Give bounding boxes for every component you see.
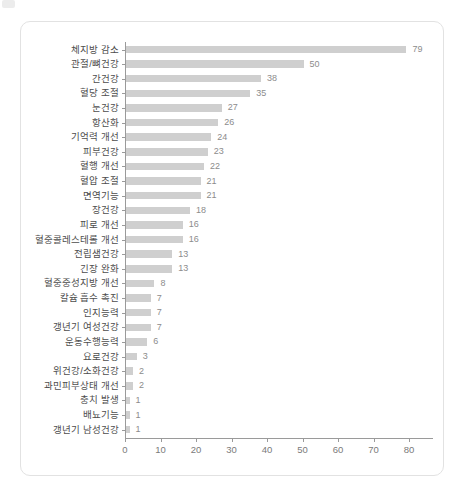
category-label: 면역기능 bbox=[21, 191, 119, 201]
x-tick-label: 60 bbox=[333, 445, 344, 455]
y-axis-tick bbox=[122, 400, 125, 401]
bar bbox=[126, 309, 151, 317]
bar bbox=[126, 324, 151, 332]
x-axis-tick bbox=[374, 439, 375, 442]
category-label: 갱년기 남성건강 bbox=[21, 425, 119, 435]
bar bbox=[126, 353, 137, 361]
value-label: 23 bbox=[214, 147, 224, 156]
bar bbox=[126, 207, 190, 215]
x-axis-tick bbox=[267, 439, 268, 442]
y-axis-tick bbox=[122, 357, 125, 358]
x-tick-label: 30 bbox=[226, 445, 237, 455]
value-label: 1 bbox=[136, 396, 141, 405]
category-label: 인지능력 bbox=[21, 308, 119, 318]
category-label: 체지방 감소 bbox=[21, 45, 119, 55]
value-label: 2 bbox=[139, 381, 144, 390]
screenshot-corner-artifact bbox=[2, 0, 15, 8]
value-label: 21 bbox=[207, 177, 217, 186]
bar bbox=[126, 250, 172, 258]
category-label: 위건강/소화건강 bbox=[21, 366, 119, 376]
x-axis-tick bbox=[232, 439, 233, 442]
category-label: 혈압 조절 bbox=[21, 176, 119, 186]
y-axis-tick bbox=[122, 108, 125, 109]
y-axis-tick bbox=[122, 298, 125, 299]
value-label: 16 bbox=[189, 220, 199, 229]
value-label: 18 bbox=[196, 206, 206, 215]
bar bbox=[126, 60, 304, 68]
bar bbox=[126, 90, 250, 98]
value-label: 16 bbox=[189, 235, 199, 244]
y-axis-tick bbox=[122, 283, 125, 284]
y-axis-tick bbox=[122, 64, 125, 65]
bar bbox=[126, 221, 183, 229]
bar bbox=[126, 148, 208, 156]
value-label: 22 bbox=[210, 162, 220, 171]
y-axis-tick bbox=[122, 430, 125, 431]
bar bbox=[126, 192, 201, 200]
y-axis-tick bbox=[122, 269, 125, 270]
bar bbox=[126, 75, 261, 83]
x-axis-tick bbox=[196, 439, 197, 442]
category-label: 간건강 bbox=[21, 74, 119, 84]
value-label: 38 bbox=[267, 74, 277, 83]
value-label: 26 bbox=[224, 118, 234, 127]
bar-chart: 체지방 감소79관절/뼈건강50간건강38혈당 조절35눈건강27항산화26기억… bbox=[21, 22, 445, 477]
y-axis-tick bbox=[122, 342, 125, 343]
category-label: 충치 발생 bbox=[21, 395, 119, 405]
y-axis-tick bbox=[122, 181, 125, 182]
bar bbox=[126, 426, 130, 434]
x-axis-tick bbox=[409, 439, 410, 442]
y-axis-tick bbox=[122, 386, 125, 387]
y-axis-tick bbox=[122, 313, 125, 314]
x-tick-label: 0 bbox=[122, 445, 127, 455]
category-label: 피로 개선 bbox=[21, 220, 119, 230]
x-axis-tick bbox=[303, 439, 304, 442]
x-axis-tick bbox=[161, 439, 162, 442]
value-label: 7 bbox=[157, 294, 162, 303]
y-axis-tick bbox=[122, 166, 125, 167]
value-label: 13 bbox=[178, 264, 188, 273]
category-label: 칼슘 흡수 촉진 bbox=[21, 293, 119, 303]
y-axis-tick bbox=[122, 79, 125, 80]
x-tick-label: 70 bbox=[368, 445, 379, 455]
value-label: 1 bbox=[136, 411, 141, 420]
category-label: 혈중중성지방 개선 bbox=[21, 278, 119, 288]
bar bbox=[126, 294, 151, 302]
value-label: 13 bbox=[178, 250, 188, 259]
bar bbox=[126, 236, 183, 244]
value-label: 7 bbox=[157, 323, 162, 332]
chart-card: 체지방 감소79관절/뼈건강50간건강38혈당 조절35눈건강27항산화26기억… bbox=[20, 21, 444, 476]
bar bbox=[126, 163, 204, 171]
y-axis-tick bbox=[122, 93, 125, 94]
x-tick-label: 10 bbox=[155, 445, 166, 455]
y-axis-tick bbox=[122, 152, 125, 153]
category-label: 긴장 완화 bbox=[21, 264, 119, 274]
category-label: 갱년기 여성건강 bbox=[21, 322, 119, 332]
y-axis-tick bbox=[122, 50, 125, 51]
x-tick-label: 50 bbox=[297, 445, 308, 455]
bar bbox=[126, 397, 130, 405]
bar bbox=[126, 265, 172, 273]
value-label: 3 bbox=[143, 352, 148, 361]
y-axis-tick bbox=[122, 327, 125, 328]
category-label: 혈행 개선 bbox=[21, 161, 119, 171]
category-label: 요로건강 bbox=[21, 352, 119, 362]
y-axis-tick bbox=[122, 371, 125, 372]
value-label: 6 bbox=[153, 337, 158, 346]
y-axis-tick bbox=[122, 240, 125, 241]
value-label: 24 bbox=[217, 133, 227, 142]
x-axis-tick bbox=[338, 439, 339, 442]
y-axis-tick bbox=[122, 123, 125, 124]
y-axis-tick bbox=[122, 254, 125, 255]
category-label: 눈건강 bbox=[21, 103, 119, 113]
category-label: 항산화 bbox=[21, 118, 119, 128]
category-label: 배뇨기능 bbox=[21, 410, 119, 420]
y-axis-tick bbox=[122, 210, 125, 211]
x-axis bbox=[125, 438, 433, 439]
bar bbox=[126, 104, 222, 112]
category-label: 장건강 bbox=[21, 205, 119, 215]
x-tick-label: 40 bbox=[262, 445, 273, 455]
value-label: 27 bbox=[228, 103, 238, 112]
category-label: 전립샘건강 bbox=[21, 249, 119, 259]
bar bbox=[126, 46, 406, 54]
